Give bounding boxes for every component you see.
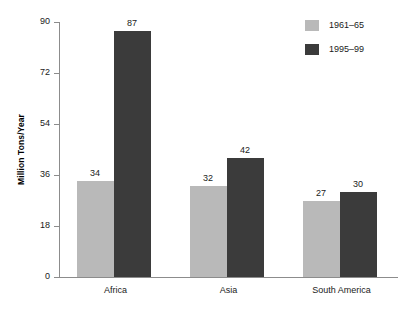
y-axis-tick-label: 90 [40,16,50,27]
y-axis-line [59,22,60,278]
y-axis-tick: 90 [0,22,59,23]
bar[interactable] [340,192,377,277]
legend-swatch-icon-series-b [305,44,319,55]
y-axis-tick-mark [54,175,59,176]
x-axis-category-label: Asia [172,285,285,296]
legend-swatch-icon-series-a [305,20,319,31]
y-axis-tick-mark [54,124,59,125]
y-axis-title: Million Tons/Year [14,22,28,277]
y-axis-tick: 54 [0,124,59,125]
y-axis-tick: 72 [0,73,59,74]
legend-label-series-a: 1961–65 [329,20,364,31]
bar-value-label: 32 [190,173,227,183]
bar-value-label: 87 [114,18,151,28]
bar-value-label: 27 [303,188,340,198]
bar[interactable] [227,158,264,277]
bar-value-label: 42 [227,145,264,155]
y-axis-tick-label: 54 [40,118,50,129]
y-axis-tick-mark [54,226,59,227]
y-axis-tick-mark [54,73,59,74]
y-axis-tick: 0 [0,277,59,278]
bar[interactable] [77,181,114,277]
bar-chart: Million Tons/Year 01836547290 3487324227… [0,0,413,313]
y-axis-tick-mark [54,277,59,278]
x-axis-category-label: South America [285,285,398,296]
bar-value-label: 34 [77,168,114,178]
legend-item-series-b[interactable]: 1995–99 [305,44,364,55]
x-axis-line [59,277,398,278]
bar-value-label: 30 [340,179,377,189]
legend-item-series-a[interactable]: 1961–65 [305,20,364,31]
y-axis-tick: 18 [0,226,59,227]
bar[interactable] [190,186,227,277]
bar[interactable] [114,31,151,278]
y-axis-tick-label: 36 [40,169,50,180]
y-axis-tick-label: 18 [40,220,50,231]
y-axis-tick-label: 72 [40,67,50,78]
x-axis-category-label: Africa [59,285,172,296]
chart-legend: 1961–65 1995–99 [305,20,364,68]
y-axis-tick: 36 [0,175,59,176]
y-axis-tick-label: 0 [45,271,50,282]
legend-label-series-b: 1995–99 [329,44,364,55]
y-axis-tick-mark [54,22,59,23]
bar[interactable] [303,201,340,278]
